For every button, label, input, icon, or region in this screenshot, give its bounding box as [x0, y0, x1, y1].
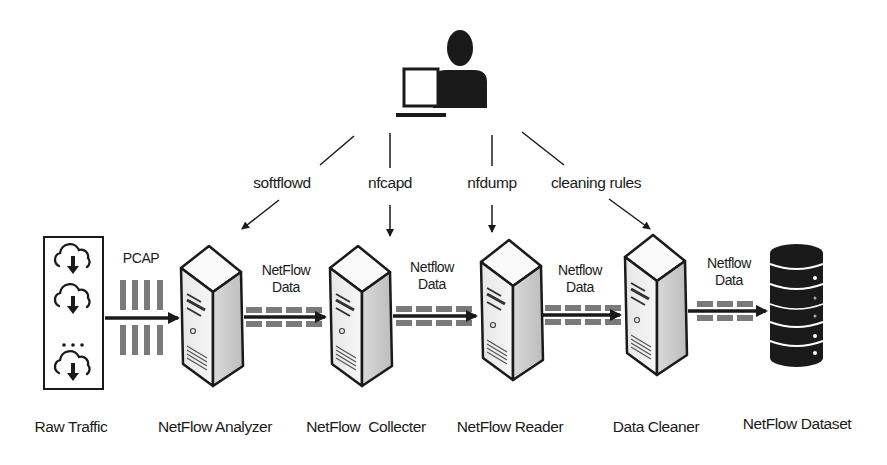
raw-traffic-box [44, 237, 103, 389]
netflow-edge-4 [688, 301, 766, 321]
edge-label-line2: Data [410, 276, 454, 293]
edge-label-line1: NetFlow [262, 262, 311, 279]
node-label-netflow-reader: NetFlow Reader [457, 418, 563, 436]
tool-label-softflowd: softflowd [253, 174, 311, 192]
node-label-netflow-collecter: NetFlow Collecter [306, 418, 425, 436]
tool-label-nfdump: nfdump [467, 174, 516, 192]
server-icon-cleaner [625, 235, 687, 375]
tool-label-nfcapd: nfcapd [368, 174, 412, 192]
edge-label-line1: Netflow [707, 255, 751, 272]
edge-label-netflow-data-2: Netflow Data [410, 259, 454, 293]
edge-label-line2: Data [262, 279, 311, 296]
database-icon [770, 244, 823, 367]
netflow-edge-2 [393, 306, 476, 326]
server-icon-analyzer [181, 246, 243, 386]
edge-label-line2: Data [558, 279, 602, 296]
netflow-edge-3 [542, 305, 621, 325]
edge-label-netflow-data-4: Netflow Data [707, 255, 751, 289]
edge-label-line1: Netflow [410, 259, 454, 276]
server-icon-collector [330, 246, 392, 386]
edge-label-netflow-data-1: NetFlow Data [262, 262, 311, 296]
tool-label-cleaning-rules: cleaning rules [551, 174, 641, 192]
diagram-canvas: softflowd nfcapd nfdump cleaning rules P… [0, 0, 887, 465]
node-label-netflow-dataset: NetFlow Dataset [743, 415, 852, 433]
netflow-edge-1 [244, 307, 325, 327]
server-icon-reader [481, 240, 543, 380]
node-label-raw-traffic: Raw Traffic [35, 418, 108, 436]
node-label-data-cleaner: Data Cleaner [613, 418, 700, 436]
node-label-netflow-analyzer: NetFlow Analyzer [158, 418, 272, 436]
edge-label-pcap: PCAP [123, 250, 160, 267]
edge-label-netflow-data-3: Netflow Data [558, 262, 602, 296]
edge-label-line1: Netflow [558, 262, 602, 279]
edge-label-line2: Data [707, 272, 751, 289]
user-with-laptop-icon [396, 30, 487, 117]
